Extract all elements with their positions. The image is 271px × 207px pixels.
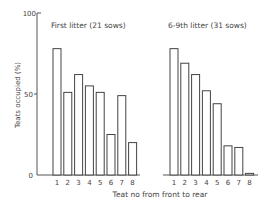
x-tick-label: 6 xyxy=(226,179,231,187)
bar-teat-5 xyxy=(96,92,104,175)
bar-teat-4 xyxy=(202,91,210,175)
panel-left-title: First litter (21 sows) xyxy=(51,21,126,30)
bar-teat-7 xyxy=(235,147,243,175)
bar-teat-8 xyxy=(129,143,137,175)
x-tick-label: 1 xyxy=(55,179,59,187)
y-tick-label-0: 0 xyxy=(29,172,33,180)
bar-teat-7 xyxy=(118,96,126,175)
bar-teat-2 xyxy=(181,63,189,175)
bars-first-litter xyxy=(53,49,137,175)
x-tick-label: 2 xyxy=(183,179,187,187)
x-tick-label: 6 xyxy=(109,179,114,187)
x-tick-label: 4 xyxy=(87,179,92,187)
x-axis-label: Teat no from front to rear xyxy=(112,190,209,199)
x-tick-label: 3 xyxy=(76,179,80,187)
x-tick-label: 1 xyxy=(172,179,176,187)
y-tick-label-100: 100 xyxy=(23,10,36,18)
x-tick-label: 5 xyxy=(215,179,219,187)
y-tick-label-50: 50 xyxy=(24,91,33,99)
x-tick-label: 7 xyxy=(120,179,124,187)
bar-teat-1 xyxy=(170,49,178,175)
bar-teat-2 xyxy=(64,92,72,175)
x-tick-label: 8 xyxy=(247,179,251,187)
bar-teat-3 xyxy=(192,75,200,175)
x-tick-label: 8 xyxy=(130,179,134,187)
bar-teat-4 xyxy=(85,86,93,175)
bar-teat-1 xyxy=(53,49,61,175)
bar-teat-8 xyxy=(246,173,254,175)
panel-right-title: 6-9th litter (31 sows) xyxy=(168,21,247,30)
bar-teat-3 xyxy=(75,75,83,175)
bar-teat-6 xyxy=(107,135,115,176)
x-tick-label: 4 xyxy=(204,179,209,187)
bar-chart: 100 50 0 Teats occupied (%) First litter… xyxy=(0,0,271,207)
bar-teat-6 xyxy=(224,146,232,175)
x-tick-labels-left: 12345678 xyxy=(55,179,135,187)
x-tick-label: 5 xyxy=(98,179,102,187)
x-tick-label: 3 xyxy=(193,179,197,187)
x-tick-label: 2 xyxy=(66,179,70,187)
y-axis-label: Teats occupied (%) xyxy=(14,62,22,129)
x-tick-label: 7 xyxy=(237,179,241,187)
x-tick-labels-right: 12345678 xyxy=(172,179,252,187)
bar-teat-5 xyxy=(213,104,221,175)
bars-later-litter xyxy=(170,49,254,175)
